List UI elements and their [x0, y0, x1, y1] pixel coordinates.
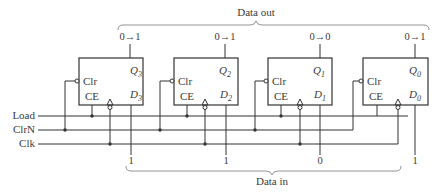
load-label: Load: [12, 109, 35, 121]
d2-input-value: 1: [223, 155, 228, 166]
q2-transition: 0→1: [215, 31, 236, 42]
q1-transition: 0→0: [310, 31, 331, 42]
flipflop-2: 0→1 Q2 D2 Clr CE 1: [158, 31, 238, 166]
flipflop-3: 0→1 Q3 D3 Clr CE 1: [63, 31, 143, 166]
data-in-label: Data in: [256, 175, 289, 187]
clr-label: Clr: [367, 75, 381, 87]
clr-bubble-icon: [75, 79, 79, 83]
flipflop-0: 0→1 Q0 D0 Clr CE 1: [353, 31, 428, 166]
q3-transition: 0→1: [120, 31, 141, 42]
data-out-label: Data out: [237, 6, 275, 18]
q0-transition: 0→1: [405, 31, 426, 42]
d0-input-value: 1: [412, 155, 417, 166]
ce-label: CE: [85, 90, 99, 102]
d1-input-value: 0: [317, 155, 322, 166]
data-in-brace: [126, 166, 401, 175]
flipflop-1: 0→0 Q1 D1 Clr CE 0: [253, 31, 332, 166]
ce-label: CE: [274, 90, 288, 102]
data-out-brace: [118, 21, 429, 30]
clrn-label: ClrN: [13, 123, 35, 135]
clr-label: Clr: [178, 75, 192, 87]
clr-bubble-icon: [359, 79, 363, 83]
register-diagram: Data out Data in Load ClrN Clk 0→1 Q3 D3…: [0, 0, 439, 193]
clr-bubble-icon: [170, 79, 174, 83]
ce-label: CE: [180, 90, 194, 102]
clr-bubble-icon: [264, 79, 268, 83]
clr-label: Clr: [272, 75, 286, 87]
clr-label: Clr: [83, 75, 97, 87]
clk-label: Clk: [19, 137, 35, 149]
ce-label: CE: [369, 90, 383, 102]
d3-input-value: 1: [128, 155, 133, 166]
